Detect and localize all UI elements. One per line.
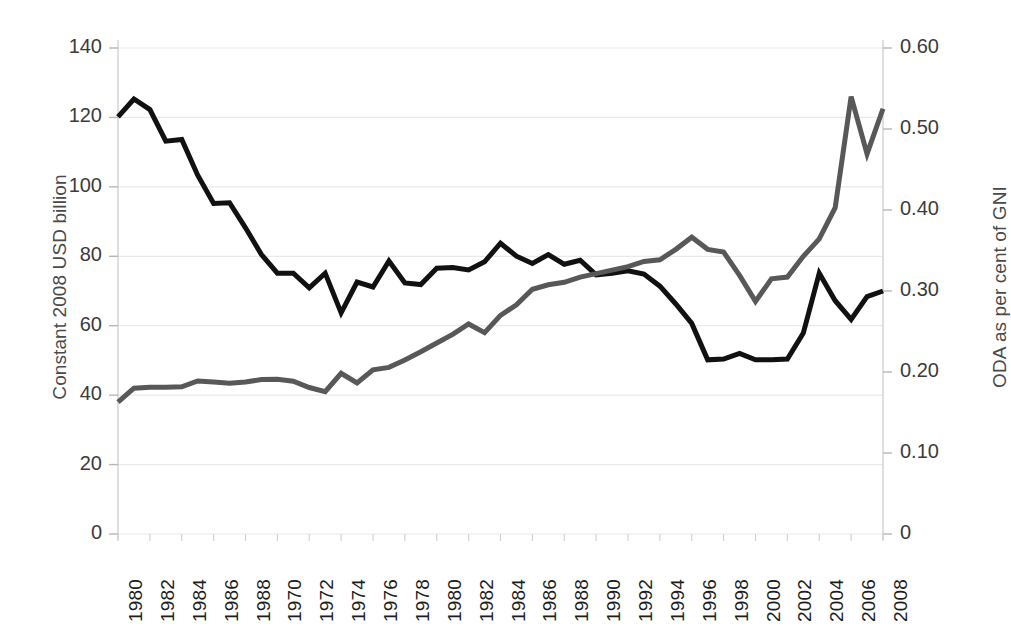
x-axis-tick-label: 2008 [890,579,912,622]
series-line-1 [118,99,883,360]
x-axis-tick-label: 1982 [157,579,179,622]
x-axis-tick-label: 1988 [571,579,593,622]
y-axis-right-tick-label: 0.60 [900,35,980,58]
x-axis-tick-label: 2006 [858,579,880,622]
x-axis-tick-label: 1988 [253,579,275,622]
x-axis-tick-label: 1990 [603,579,625,622]
x-axis-tick-label: 1984 [508,579,530,622]
y-axis-right-tick-label: 0.10 [900,440,980,463]
x-axis-tick-label: 1972 [316,579,338,622]
x-axis-tick-label: 1986 [539,579,561,622]
x-axis-tick-label: 1994 [667,579,689,622]
x-axis-tick-label: 1998 [731,579,753,622]
x-axis-tick-label: 2000 [763,579,785,622]
y-axis-right-tick-label: 0.30 [900,278,980,301]
y-axis-left-tick-label: 40 [40,382,102,405]
y-axis-left-tick-label: 80 [40,243,102,266]
x-axis-tick-label: 1970 [284,579,306,622]
y-axis-left-tick-label: 20 [40,452,102,475]
x-axis-tick-label: 1980 [444,579,466,622]
y-axis-right-tick-label: 0.20 [900,359,980,382]
y-axis-right-tick-label: 0.50 [900,116,980,139]
x-axis-tick-label: 2004 [826,579,848,622]
y-axis-left-tick-label: 100 [40,174,102,197]
series-line-2 [118,97,883,402]
y-axis-left-tick-label: 60 [40,313,102,336]
x-axis-tick-label: 1992 [635,579,657,622]
x-axis-tick-label: 1982 [476,579,498,622]
x-axis-tick-label: 1974 [348,579,370,622]
y-axis-left-tick-label: 140 [40,35,102,58]
y-axis-right-tick-label: 0 [900,521,980,544]
y-axis-left-tick-label: 0 [40,521,102,544]
x-axis-tick-label: 1984 [189,579,211,622]
y-axis-right-tick-label: 0.40 [900,197,980,220]
y-axis-left-tick-label: 120 [40,104,102,127]
x-axis-tick-label: 1996 [699,579,721,622]
x-axis-tick-label: 1978 [412,579,434,622]
x-axis-tick-label: 2002 [794,579,816,622]
x-axis-tick-label: 1986 [221,579,243,622]
x-axis-tick-label: 1980 [125,579,147,622]
x-axis-tick-label: 1976 [380,579,402,622]
